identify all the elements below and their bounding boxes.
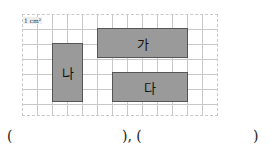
- answer-close-paren-2: ): [253, 128, 258, 144]
- unit-label: 1 cm²: [23, 17, 42, 24]
- shape-na-label: 나: [62, 63, 74, 82]
- shape-ga-label: 가: [137, 34, 149, 53]
- shape-da: 다: [112, 72, 188, 102]
- shape-na: 나: [52, 43, 83, 102]
- shape-ga: 가: [97, 28, 188, 58]
- answer-separator: ), (: [122, 128, 142, 144]
- answer-open-paren-1: (: [7, 128, 12, 144]
- shape-da-label: 다: [144, 78, 156, 97]
- answer-blanks: ( ), ( ): [0, 128, 272, 152]
